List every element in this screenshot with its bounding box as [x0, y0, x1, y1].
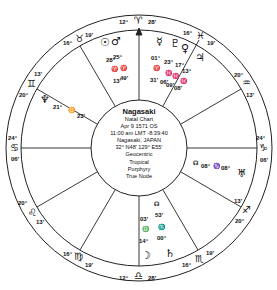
aquarius-sign-icon: ♒ [242, 78, 251, 88]
cusp-3-deg: 16° [63, 251, 72, 257]
chart-node-type: True Node [91, 173, 187, 180]
cusp-3-min: 19' [85, 262, 93, 268]
moon-deg: 14° [139, 238, 148, 244]
moon-min: 03' [140, 216, 148, 222]
node-sign: ♑ [213, 163, 220, 169]
jupiter-icon: ♃ [195, 52, 205, 63]
south-node-icon: ☊ [154, 201, 159, 207]
moon-icon: ☽ [141, 250, 151, 261]
chart-coords: 32° N48' 129° E55' [91, 144, 187, 151]
mars-sign: ♈ [120, 65, 127, 71]
chart-title: Nagasaki [91, 108, 187, 116]
mars-icon: ♂ [111, 36, 121, 47]
chart-info: Nagasaki Natal Chart Apr 9 1571 OS 11:00… [91, 108, 187, 180]
chart-time: 11:00 am LMT -8:39:40 [91, 130, 187, 137]
chart-place: Nagasaki, JAPAN [91, 137, 187, 144]
node-icon: ☊ [193, 160, 198, 166]
cusp-6-deg: 20° [235, 218, 244, 224]
uranus-icon: ♅ [237, 168, 247, 179]
cusp-11-deg: 16° [63, 40, 72, 46]
cusp-5-deg: 16° [182, 262, 191, 268]
chart-type: Natal Chart [91, 116, 187, 123]
cusp-ic-min: 28' [148, 275, 156, 281]
jupiter-sign: ♓ [180, 78, 187, 84]
chart-date: Apr 9 1571 OS [91, 123, 187, 130]
node-min: 08° [221, 165, 230, 171]
neptune-min: 23' [77, 113, 85, 119]
cusp-5-min: 19' [206, 250, 214, 256]
mercury-deg: 01° [151, 55, 160, 61]
venus-sign: ♓ [172, 73, 179, 79]
node-deg: 08° [201, 163, 210, 169]
cusp-11-min: 19' [85, 32, 93, 38]
cusp-9-min: 19' [207, 40, 215, 46]
cusp-12-min: 13' [34, 71, 42, 77]
aries-sign-icon: ♈ [134, 16, 143, 26]
chart-zodiac: Tropical [91, 159, 187, 166]
mars-deg: 25° [113, 54, 122, 60]
cancer-sign-icon: ♋ [10, 143, 19, 153]
neptune-deg: 21° [53, 104, 62, 110]
chart-system: Geocentric [91, 151, 187, 158]
cusp-9-deg: 16° [183, 30, 192, 36]
cusp-8-min: 13' [246, 92, 254, 98]
cusp-6-min: 13' [234, 198, 242, 204]
mercury-sign: ♈ [153, 65, 160, 71]
cusp-asc-min: 06' [11, 156, 19, 162]
gemini-sign-icon: ♊ [27, 79, 36, 89]
neptune-sign: ♊ [68, 107, 75, 113]
cusp-dsc-min: 06' [260, 157, 268, 163]
scorpio-sign-icon: ♏ [195, 254, 204, 264]
pluto-icon: ♇ [170, 38, 180, 49]
libra-sign-icon: ♎ [134, 271, 143, 281]
sun-icon: ☉ [100, 37, 110, 48]
pisces-sign-icon: ♓ [196, 31, 205, 41]
mercury-icon: ☿ [156, 36, 163, 47]
south-node-deg: 00° [157, 235, 166, 241]
cusp-2-deg: 20° [18, 200, 27, 206]
cusp-12-deg: 20° [19, 92, 28, 98]
chart-house-system: Porphyry [91, 166, 187, 173]
south-node-sign: ♏ [158, 224, 165, 230]
sun-sign: ♈ [111, 66, 118, 72]
sagittarius-sign-icon: ♐ [242, 205, 251, 215]
neptune-icon: ♆ [40, 94, 50, 105]
taurus-sign-icon: ♉ [75, 34, 84, 44]
jupiter-deg: 13° [182, 68, 191, 74]
cusp-dsc-deg: 24° [256, 135, 265, 141]
south-node-min: 53' [155, 212, 163, 218]
moon-sign: ♎ [142, 226, 149, 232]
leo-sign-icon: ♌ [28, 208, 37, 218]
cusp-ic-deg: 12° [119, 275, 128, 281]
mercury-min: 31' [150, 77, 158, 83]
saturn-icon: ♄ [165, 248, 175, 259]
jupiter-min: 08' [174, 85, 182, 91]
venus-icon: ♀ [181, 43, 189, 54]
mars-min: 49' [120, 75, 128, 81]
pluto-deg: 23° [164, 59, 173, 65]
cusp-asc-deg: 24° [8, 135, 17, 141]
cusp-mc-deg: 12° [119, 19, 128, 25]
cusp-2-min: 13' [36, 219, 44, 225]
venus-min: 09' [166, 82, 174, 88]
virgo-sign-icon: ♍ [74, 252, 83, 262]
cusp-mc-min: 28' [148, 19, 156, 25]
capricorn-sign-icon: ♑ [259, 143, 268, 153]
pluto-sign: ♓ [165, 70, 172, 76]
